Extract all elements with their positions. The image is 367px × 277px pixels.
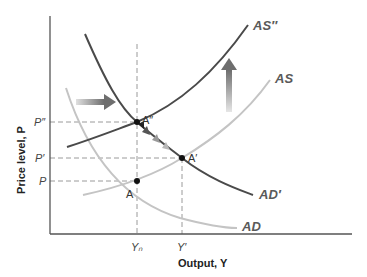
label-a: A (126, 188, 134, 200)
y-tick-p-double-prime: P″ (34, 116, 46, 128)
ad-shift-arrow (76, 94, 116, 110)
as-shift-arrow (221, 58, 237, 112)
as-curve (83, 80, 270, 195)
x-tick-y-prime: Y′ (177, 241, 187, 253)
guide-lines (50, 44, 182, 234)
point-a-prime (179, 155, 185, 161)
label-as: AS (274, 71, 293, 86)
as-double-prime-curve (67, 25, 248, 147)
point-a-double-prime (134, 119, 140, 125)
y-tick-p: P (39, 175, 47, 187)
label-as-double-prime: AS″ (252, 18, 278, 33)
x-tick-yn: Yₙ (131, 241, 143, 253)
as-ad-diagram: A″ A′ A AS″ AS AD′ AD P″ P′ P Yₙ Y′ Pric… (0, 0, 367, 277)
y-axis-title: Price level, P (15, 126, 27, 194)
x-axis-title: Output, Y (178, 257, 228, 269)
label-a-double-prime: A″ (142, 114, 153, 126)
label-a-prime: A′ (188, 152, 197, 164)
label-ad: AD (241, 219, 261, 234)
axes (50, 16, 352, 234)
y-tick-p-prime: P′ (35, 152, 45, 164)
label-ad-prime: AD′ (258, 187, 282, 202)
point-a (134, 178, 140, 184)
